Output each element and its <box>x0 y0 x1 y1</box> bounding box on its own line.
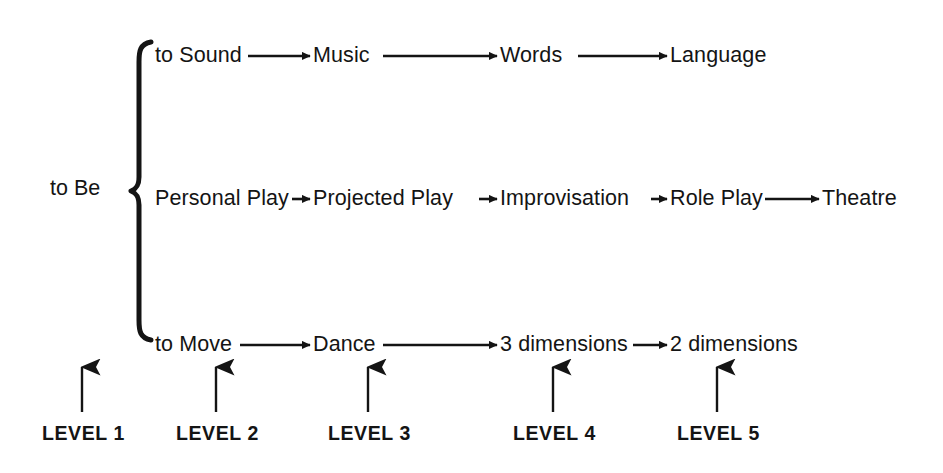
level-label-2: LEVEL 2 <box>176 424 259 444</box>
node-move-branch-2: Dance <box>313 334 376 356</box>
level-label-1: LEVEL 1 <box>42 424 125 444</box>
node-play-branch-2: Projected Play <box>313 188 453 210</box>
node-sound-branch-4: Language <box>670 45 766 67</box>
level-label-4: LEVEL 4 <box>513 424 596 444</box>
level-label-5: LEVEL 5 <box>677 424 760 444</box>
level-pointer-arrows <box>82 367 717 412</box>
root-node-to-be: to Be <box>50 178 100 200</box>
node-sound-branch-1: to Sound <box>155 45 242 67</box>
diagram-lines-layer <box>0 0 943 473</box>
node-play-branch-5: Theatre <box>822 188 897 210</box>
node-sound-branch-2: Music <box>313 45 370 67</box>
node-move-branch-4: 2 dimensions <box>670 334 798 356</box>
node-sound-branch-3: Words <box>500 45 562 67</box>
node-play-branch-4: Role Play <box>670 188 763 210</box>
level-label-3: LEVEL 3 <box>328 424 411 444</box>
node-play-branch-1: Personal Play <box>155 188 289 210</box>
node-move-branch-1: to Move <box>155 334 232 356</box>
node-play-branch-3: Improvisation <box>500 188 629 210</box>
node-move-branch-3: 3 dimensions <box>500 334 628 356</box>
diagram-canvas: to Be to SoundMusicWordsLanguagePersonal… <box>0 0 943 473</box>
curly-brace-icon <box>131 42 151 340</box>
curly-brace-path <box>131 42 151 340</box>
